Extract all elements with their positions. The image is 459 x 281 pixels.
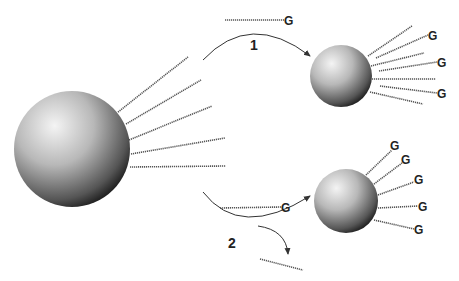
end-group-label: G (437, 56, 446, 70)
chain (126, 80, 201, 124)
end-group-label: G (418, 200, 427, 214)
chain (380, 86, 437, 93)
chain (131, 138, 225, 154)
end-group-label: G (281, 201, 290, 215)
chain (371, 53, 424, 66)
chain (368, 26, 412, 56)
pathway-2-label: 2 (228, 235, 236, 251)
released-chain (260, 259, 303, 270)
small-particle-1 (310, 45, 372, 107)
end-group-label: G (401, 153, 410, 167)
chain (378, 182, 414, 195)
arrow-pathway-2 (203, 192, 310, 217)
pathway-1-label: 1 (250, 37, 258, 53)
chain (370, 92, 423, 104)
chain (118, 57, 188, 112)
large-particle (14, 91, 130, 207)
chain (374, 220, 414, 229)
end-group-label: G (390, 139, 399, 153)
chain (129, 106, 212, 140)
end-group-label: G (437, 87, 446, 101)
chain (366, 150, 392, 175)
end-group-label: G (428, 29, 437, 43)
chain (379, 62, 437, 71)
end-group-label: G (284, 14, 293, 28)
diagram-canvas: 1 2 G G G G G G G G G G (0, 0, 459, 281)
end-group-label: G (414, 223, 423, 237)
chain (130, 166, 226, 167)
arrow-release (258, 226, 288, 254)
end-group-label: G (414, 173, 423, 187)
free-chain-2 (220, 207, 282, 208)
small-particle-2 (314, 169, 378, 233)
chain (378, 206, 418, 208)
chain (374, 163, 402, 184)
